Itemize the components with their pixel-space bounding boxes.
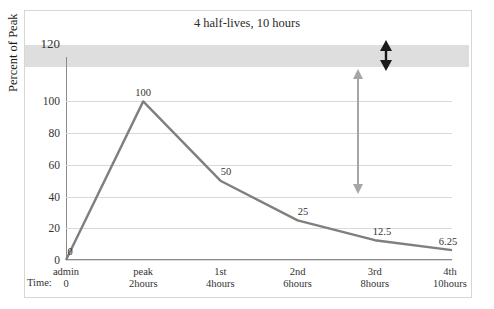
x-category-4: 3rd 8hours [361,266,390,290]
point-label-5: 6.25 [439,236,457,247]
x-category-2-time: 4hours [206,278,235,289]
gridline-0 [66,260,452,261]
x-axis-label: Time: [27,277,52,288]
chart-figure: 4 half-lives, 10 hours Percent of Peak 0… [0,0,494,309]
y-tick-120: 120 [41,36,61,52]
point-label-1: 100 [135,87,151,98]
x-category-2-name: 1st [214,266,226,277]
y-axis-label: Percent of Peak [6,14,21,92]
point-label-2: 50 [221,166,232,177]
point-label-0: 0 [67,246,72,257]
x-category-5: 4th 10hours [433,266,467,290]
x-category-3: 2nd 6hours [283,266,312,290]
y-tick-40: 40 [49,191,61,203]
series-line [66,57,452,260]
x-category-4-name: 3rd [368,266,382,277]
chart-title: 4 half-lives, 10 hours [24,16,470,31]
x-category-0-time: 0 [63,278,68,289]
x-category-4-time: 8hours [361,278,390,289]
y-tick-20: 20 [49,222,61,234]
x-category-2: 1st 4hours [206,266,235,290]
x-category-3-time: 6hours [283,278,312,289]
plot-area: 0 20 40 60 80 100 120 0 100 50 25 12.5 6… [66,57,452,260]
x-category-3-name: 2nd [290,266,306,277]
x-category-1-name: peak [133,266,153,277]
x-category-0: admin 0 [53,266,79,290]
x-category-0-name: admin [53,266,79,277]
y-tick-60: 60 [49,159,61,171]
y-tick-100: 100 [43,95,60,107]
x-category-1-time: 2hours [129,278,158,289]
x-category-1: peak 2hours [129,266,158,290]
x-category-5-name: 4th [443,266,456,277]
x-category-5-time: 10hours [433,278,467,289]
y-tick-80: 80 [49,127,61,139]
point-label-4: 12.5 [373,226,391,237]
point-label-3: 25 [298,206,309,217]
y-tick-0: 0 [54,254,60,266]
